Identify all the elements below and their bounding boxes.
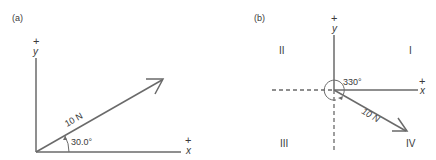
quadrant-i-label: I xyxy=(409,45,412,56)
panel-b-magnitude-label: 10 N xyxy=(360,106,382,124)
quadrant-iv-label: IV xyxy=(406,138,416,149)
panel-a-label: (a) xyxy=(12,13,23,23)
panel-a-x-label: x xyxy=(185,145,192,156)
angle-arrow-icon xyxy=(338,96,343,100)
panel-a-force-vector xyxy=(36,80,162,152)
panel-a-angle-label: 30.0° xyxy=(71,137,93,147)
quadrant-ii-label: II xyxy=(279,45,285,56)
panel-b-label: (b) xyxy=(254,13,265,23)
panel-b-x-label: x xyxy=(419,85,426,96)
panel-b: (b) + y + x II I III IV 330° 10 N xyxy=(254,12,426,152)
vector-diagrams: (a) + y + x 10 N 30.0° (b) + y + x II I … xyxy=(0,0,436,160)
quadrant-iii-label: III xyxy=(280,138,288,149)
panel-a-y-label: y xyxy=(32,46,39,57)
panel-b-y-label: y xyxy=(331,23,338,34)
panel-b-angle-label: 330° xyxy=(343,77,362,87)
panel-a: (a) + y + x 10 N 30.0° xyxy=(12,13,192,156)
